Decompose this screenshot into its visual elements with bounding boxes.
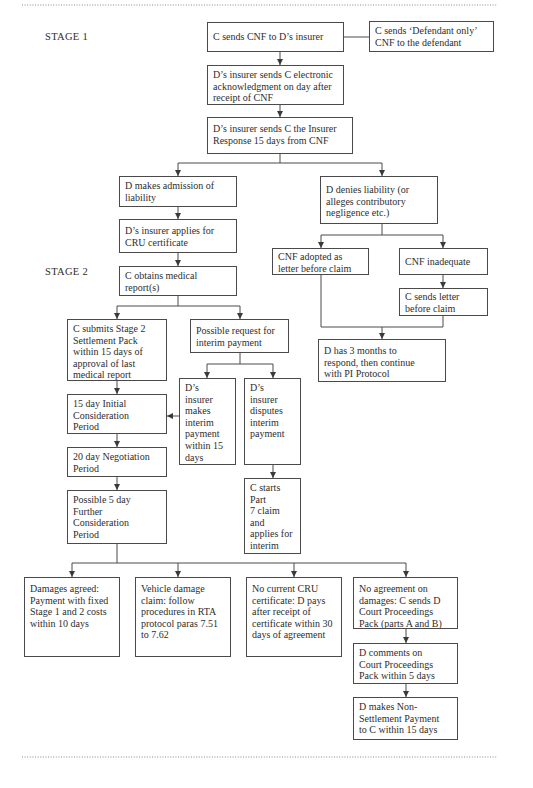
box-makes-interim: D’s insurer makes interim payment within… xyxy=(179,378,236,465)
box-insurer-response: D’s insurer sends C the Insurer Response… xyxy=(207,117,353,154)
box-disputes-interim: D’s insurer disputes interim payment xyxy=(244,378,301,465)
box-part7-claim: C starts Part 7 claim and applies for in… xyxy=(244,478,301,554)
box-cnf-adopted: CNF adopted as letter before claim xyxy=(272,248,369,275)
box-negotiation-period: 20 day Negotiation Period xyxy=(67,447,167,477)
box-denies-liability: D denies liability (or alleges contribut… xyxy=(320,176,438,224)
box-vehicle-damage: Vehicle damage claim: follow procedures … xyxy=(135,577,231,657)
box-admission-of-liability: D makes admission of liability xyxy=(119,176,237,207)
box-comments-on-pack: D comments on Court Proceedings Pack wit… xyxy=(353,643,458,684)
box-cnf-to-insurer: C sends CNF to D’s insurer xyxy=(207,22,344,52)
box-three-months: D has 3 months to respond, then continue… xyxy=(318,339,446,382)
box-medical-reports: C obtains medical report(s) xyxy=(119,266,237,296)
box-letter-before-claim: C sends letter before claim xyxy=(399,288,488,316)
box-applies-cru: D’s insurer applies for CRU certificate xyxy=(119,219,237,253)
flowchart: STAGE 1 STAGE 2 C sends CNF to D’s insur… xyxy=(0,0,533,788)
box-cnf-inadequate: CNF inadequate xyxy=(399,248,488,275)
box-interim-request: Possible request for interim payment xyxy=(190,319,289,353)
box-damages-agreed: Damages agreed: Payment with fixed Stage… xyxy=(24,577,120,657)
box-no-agreement: No agreement on damages: C sends D Court… xyxy=(353,577,458,629)
box-non-settlement-payment: D makes Non- Settlement Payment to C wit… xyxy=(353,697,458,740)
box-defendant-only-cnf: C sends ‘Defendant only’ CNF to the defe… xyxy=(369,21,494,52)
stage-2-label: STAGE 2 xyxy=(45,266,88,277)
box-no-cru-certificate: No current CRU certificate: D pays after… xyxy=(246,577,342,657)
box-stage2-pack: C submits Stage 2 Settlement Pack within… xyxy=(67,319,167,381)
box-electronic-ack: D’s insurer sends C electronic acknowled… xyxy=(207,65,344,105)
box-initial-consideration: 15 day Initial Consideration Period xyxy=(67,394,167,434)
stage-1-label: STAGE 1 xyxy=(45,31,88,42)
box-further-consideration: Possible 5 day Further Consideration Per… xyxy=(67,490,167,544)
